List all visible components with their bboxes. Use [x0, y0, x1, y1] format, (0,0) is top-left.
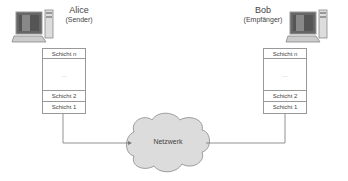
receiver-layer-stack: Schicht n ... Schicht 2 Schicht 1: [263, 48, 307, 114]
sender-label: Alice (Sender): [54, 6, 104, 24]
layer-ellipsis: ...: [43, 59, 85, 91]
computer-icon: [12, 10, 53, 42]
layer-2: Schicht 2: [264, 91, 306, 102]
receiver-label: Bob (Empfänger): [238, 6, 288, 24]
sender-role: (Sender): [54, 15, 104, 24]
network-label: Netzwerk: [148, 138, 188, 145]
layer-1: Schicht 1: [264, 102, 306, 113]
sender-layer-stack: Schicht n ... Schicht 2 Schicht 1: [42, 48, 86, 114]
layer-1: Schicht 1: [43, 102, 85, 113]
layer-2: Schicht 2: [43, 91, 85, 102]
layer-n: Schicht n: [264, 49, 306, 59]
computer-icon: [286, 10, 327, 42]
layer-n: Schicht n: [43, 49, 85, 59]
sender-name: Alice: [54, 6, 104, 15]
receiver-role: (Empfänger): [238, 15, 288, 24]
layer-ellipsis: ...: [264, 59, 306, 91]
receiver-name: Bob: [238, 6, 288, 15]
